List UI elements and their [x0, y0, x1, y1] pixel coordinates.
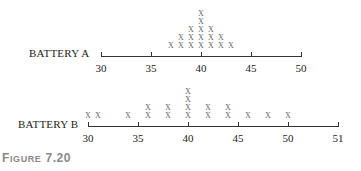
- data-point-x-marker: X: [265, 112, 271, 120]
- x-tick-label: 51: [333, 132, 344, 144]
- data-point-x-marker: X: [185, 96, 191, 104]
- data-point-x-marker: X: [95, 112, 101, 120]
- data-point-x-marker: X: [85, 112, 91, 120]
- data-point-x-marker: X: [185, 104, 191, 112]
- x-axis-tick: [238, 122, 239, 127]
- battery-b-label: BATTERY B: [18, 118, 78, 130]
- data-point-x-marker: X: [125, 112, 131, 120]
- x-tick-label: 45: [233, 132, 244, 144]
- data-point-x-marker: X: [145, 112, 151, 120]
- data-point-x-marker: X: [225, 112, 231, 120]
- x-axis-tick: [338, 122, 339, 127]
- figure-caption: FIGURE 7.20: [2, 151, 71, 165]
- data-point-x-marker: X: [185, 112, 191, 120]
- caption-number: 7.20: [45, 151, 71, 165]
- x-axis-tick: [88, 122, 89, 127]
- data-point-x-marker: X: [245, 112, 251, 120]
- x-axis-tick: [138, 122, 139, 127]
- battery-b-dot-plot: BATTERY B 303540455051XXXXXXXXXXXXXXXXXX: [0, 0, 361, 150]
- data-point-x-marker: X: [145, 104, 151, 112]
- x-axis-tick: [188, 122, 189, 127]
- data-point-x-marker: X: [185, 88, 191, 96]
- x-tick-label: 35: [133, 132, 144, 144]
- x-axis-line: [88, 126, 339, 127]
- caption-smallcaps: IGURE: [10, 154, 42, 164]
- data-point-x-marker: X: [285, 112, 291, 120]
- x-tick-label: 40: [183, 132, 194, 144]
- data-point-x-marker: X: [225, 104, 231, 112]
- data-point-x-marker: X: [165, 112, 171, 120]
- data-point-x-marker: X: [205, 104, 211, 112]
- x-tick-label: 50: [283, 132, 294, 144]
- x-axis-tick: [288, 122, 289, 127]
- data-point-x-marker: X: [165, 104, 171, 112]
- data-point-x-marker: X: [205, 112, 211, 120]
- caption-initial: F: [2, 151, 10, 165]
- x-tick-label: 30: [83, 132, 94, 144]
